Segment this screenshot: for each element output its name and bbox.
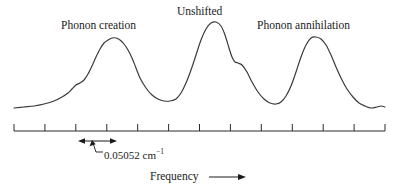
annotation-leader-line: [90, 140, 103, 152]
peak-label-unshifted: Unshifted: [177, 6, 222, 18]
peak-label-phonon-annihilation: Phonon annihilation: [257, 20, 350, 32]
linewidth-annotation-value: 0.05052 cm: [104, 149, 156, 161]
right-arrow-icon: [209, 174, 246, 180]
spectrum-figure: Phonon creation Unshifted Phonon annihil…: [0, 0, 399, 190]
axis-tick-group: [14, 124, 385, 131]
linewidth-annotation-exponent: −1: [156, 147, 164, 156]
frequency-axis-label: Frequency: [150, 171, 199, 183]
span-measure-arrow: [78, 138, 117, 144]
peak-label-phonon-creation: Phonon creation: [61, 20, 136, 32]
spectrum-curve: [14, 22, 385, 108]
linewidth-annotation: 0.05052 cm−1: [104, 150, 164, 161]
